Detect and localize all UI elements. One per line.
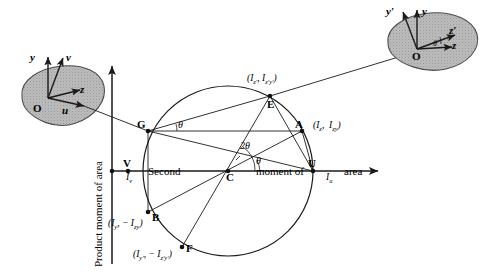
right-origin-label: O xyxy=(412,51,421,62)
right-axis-label-z-prime: z′ xyxy=(449,25,456,36)
figure-canvas: Product moment of area Second moment of … xyxy=(0,0,481,277)
point-label-E: E xyxy=(267,99,274,110)
point-label-V: V xyxy=(123,158,131,169)
right-axis-label-y: y xyxy=(422,6,427,17)
coordinate-label-B: (Iy, − Izy) xyxy=(108,219,143,230)
left-axis-label-v: v xyxy=(66,52,71,63)
mohr-circle-drawing xyxy=(0,0,481,277)
axis-value-Iv-sub: v xyxy=(129,177,132,184)
angle-label-2theta-at-C: 2θ xyxy=(240,141,250,151)
horizontal-axis-word-area: area xyxy=(344,166,362,177)
point-label-U: U xyxy=(308,158,316,169)
point-label-G: G xyxy=(137,119,146,130)
horizontal-axis-word-moment-of: moment of xyxy=(256,166,304,177)
left-axis-label-z: z xyxy=(80,84,84,95)
left-area-shape xyxy=(22,66,105,126)
coord-E-sub2: z′y′ xyxy=(265,78,273,85)
left-axis-label-u: u xyxy=(62,105,68,116)
coord-B-sub1: y xyxy=(114,223,117,230)
coordinate-label-F: (Iy′, − Iz′y′) xyxy=(133,250,172,261)
coordinate-label-A: (Iz, Izy) xyxy=(313,121,341,132)
vertical-axis-title: Product moment of area xyxy=(92,161,104,267)
left-axis-label-y: y xyxy=(30,52,35,63)
coord-E-sub1: z′ xyxy=(253,78,257,85)
axis-value-Iu-sub: u xyxy=(329,177,332,184)
point-label-F: F xyxy=(186,243,193,254)
point-label-B: B xyxy=(152,212,159,223)
axis-value-Iu: Iu xyxy=(326,173,332,184)
left-origin-label: O xyxy=(33,103,42,114)
angle-label-theta-at-C: θ xyxy=(256,156,261,166)
right-axis-label-y-prime: y′ xyxy=(386,6,394,17)
coord-B-sub2: zy xyxy=(134,223,139,230)
coordinate-label-E: (Iz′, Iz′y′) xyxy=(247,74,277,85)
axis-value-Iv: Iv xyxy=(126,173,132,184)
coord-F-sub2: z′y′ xyxy=(160,254,168,261)
point-label-C: C xyxy=(226,172,234,183)
point-label-A: A xyxy=(295,119,303,130)
angle-label-theta-at-G: θ xyxy=(178,120,183,130)
horizontal-axis-word-second: Second xyxy=(148,166,180,177)
coord-A-sub1: z xyxy=(319,125,322,132)
right-axis-label-z: z xyxy=(452,40,456,51)
coord-F-sub1: y′ xyxy=(139,254,143,261)
right-shape-angle-theta: θ xyxy=(433,40,437,48)
coord-A-sub2: zy xyxy=(332,125,337,132)
tie-lines xyxy=(84,52,415,131)
